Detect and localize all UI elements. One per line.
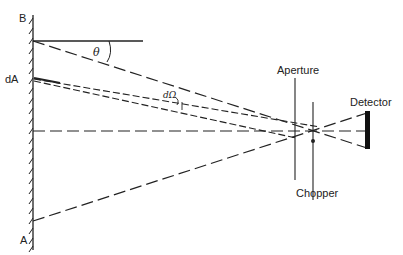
ray-upper [33,41,367,148]
wall-surface [29,15,33,252]
label-a: A [20,234,28,246]
ray-da-1 [34,79,320,127]
label-da: dA [5,73,19,85]
theta-arc [107,41,111,62]
label-aperture: Aperture [277,64,319,76]
ray-lower [33,113,367,221]
label-chopper: Chopper [296,187,339,199]
detector [365,111,370,149]
label-domega: dΩ [163,90,177,100]
label-b: B [19,12,26,24]
label-theta: θ [93,46,100,59]
label-detector: Detector [350,96,392,108]
chopper-pivot [311,139,315,143]
optical-diagram: B A dA θ dΩ Aperture Chopper Detector [0,0,403,255]
